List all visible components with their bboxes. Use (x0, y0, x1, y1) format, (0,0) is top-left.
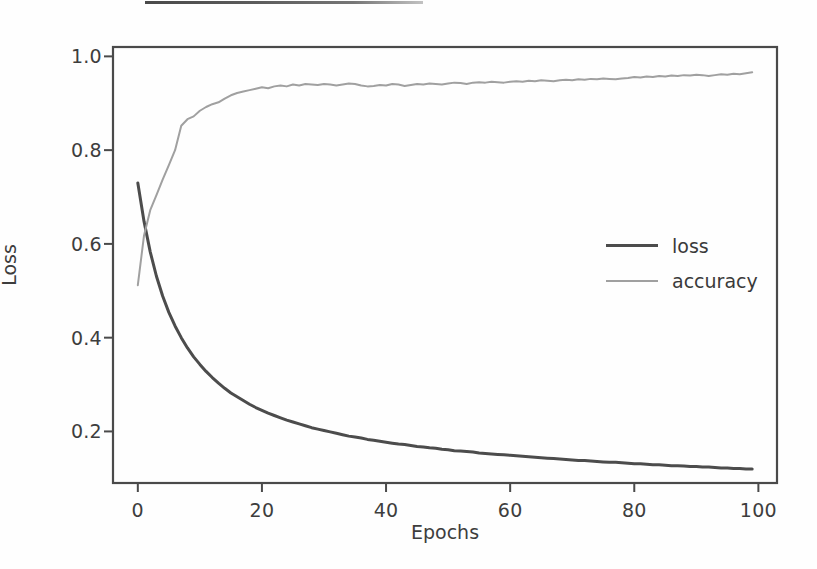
legend-label-accuracy: accuracy (672, 270, 758, 292)
legend-label-loss: loss (672, 235, 709, 257)
series-line-loss (138, 183, 752, 469)
legend-item-accuracy: accuracy (606, 263, 776, 298)
x-tick-label: 20 (250, 499, 275, 521)
chart-legend: loss accuracy (606, 228, 776, 298)
x-tick-label: 100 (740, 499, 777, 521)
legend-swatch-loss-icon (606, 244, 658, 247)
chart-figure: 1.00.80.60.40.2 020406080100 Epochs Loss… (0, 0, 817, 569)
x-tick-label: 40 (374, 499, 399, 521)
legend-swatch-accuracy-icon (606, 280, 658, 282)
y-tick-label: 0.8 (40, 139, 102, 161)
y-axis-label: Loss (0, 244, 20, 286)
y-tick-label: 0.4 (40, 327, 102, 349)
legend-item-loss: loss (606, 228, 776, 263)
x-tick-label: 0 (132, 499, 144, 521)
x-tick-label: 60 (498, 499, 523, 521)
y-tick-label: 0.6 (40, 233, 102, 255)
x-axis-label: Epochs (411, 521, 479, 543)
y-tick-label: 0.2 (40, 420, 102, 442)
y-tick-label: 1.0 (40, 45, 102, 67)
x-tick-label: 80 (622, 499, 647, 521)
